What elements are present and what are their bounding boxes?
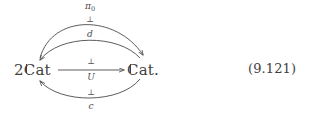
- adjunction-middle-lower: ⊥: [87, 88, 95, 97]
- node-2cat-suffix: at: [35, 61, 50, 79]
- c-arrow-label: c: [88, 101, 93, 111]
- node-2cat: 2Cat: [14, 61, 51, 79]
- d-arrow-label: d: [87, 29, 93, 39]
- node-cat-suffix: at.: [139, 61, 159, 79]
- adjunction-top: ⊥: [86, 15, 94, 24]
- node-cat-blackboard-c: C: [127, 61, 139, 79]
- diagram-canvas: [0, 0, 320, 117]
- equation-number: (9.121): [248, 61, 296, 76]
- figure-root: 2Cat Cat. π0 ⊥ d ⊥ U ⊥ c (9.121): [0, 0, 320, 117]
- pi0-arrow-label: π0: [85, 1, 95, 13]
- U-arrow-label: U: [87, 72, 95, 82]
- node-2cat-blackboard-c: C: [24, 61, 36, 79]
- node-2cat-prefix: 2: [14, 61, 24, 79]
- pi0-subscript: 0: [91, 5, 95, 13]
- node-cat: Cat.: [127, 61, 159, 79]
- adjunction-middle-upper: ⊥: [87, 57, 95, 66]
